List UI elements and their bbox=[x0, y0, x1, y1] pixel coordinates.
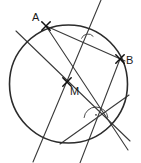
geometry-figure: A B M bbox=[0, 0, 141, 163]
point-label-M: M bbox=[70, 85, 79, 97]
point-label-B: B bbox=[126, 54, 133, 66]
angle-marks-group bbox=[81, 34, 108, 118]
line-B-down-to-bottom-left bbox=[80, 59, 120, 163]
point-markers-group bbox=[42, 22, 124, 86]
point-label-A: A bbox=[32, 11, 40, 23]
geometry-canvas: A B M bbox=[0, 0, 141, 163]
angle-lower-dot bbox=[95, 114, 97, 116]
angle-upper-arc bbox=[81, 34, 93, 39]
